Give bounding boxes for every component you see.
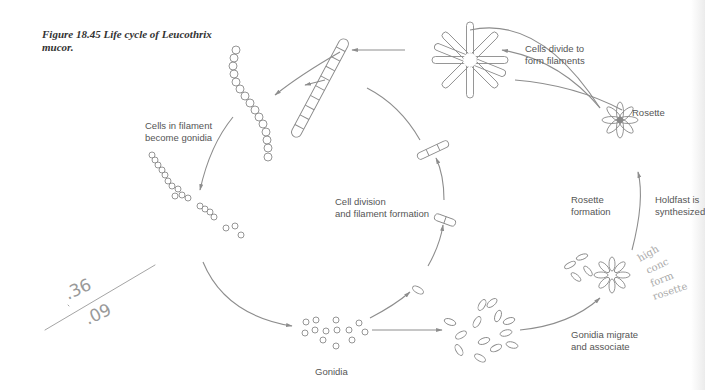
arrow-rosette-curve — [515, 80, 622, 110]
arrow-up-to-filament — [367, 88, 420, 140]
migrating-gonidia — [443, 297, 518, 364]
label-cell-division: Cell division and filament formation — [335, 196, 429, 220]
cycle-arrows — [200, 28, 640, 330]
label-line: become gonidia — [145, 132, 212, 144]
arrow-cell-to-dividing — [428, 225, 443, 266]
forming-rosette — [564, 253, 630, 293]
label-line: formation — [571, 206, 611, 218]
label-rosette-formation: Rosette formation — [571, 194, 611, 218]
label-filament-gonidia: Cells in filament become gonidia — [145, 120, 212, 144]
label-line: Cells in filament — [145, 120, 212, 132]
handwritten-denominator: .09 — [81, 299, 114, 329]
handwritten-margin-note: high conc form rosette — [636, 243, 689, 302]
label-line: synthesized — [655, 206, 705, 218]
label-holdfast: Holdfast is synthesized — [655, 194, 705, 218]
arrow-dividing-to-filament — [436, 158, 444, 200]
fragmenting-chain — [149, 152, 244, 238]
label-rosette: Rosette — [632, 107, 665, 119]
gonidia-cluster — [302, 317, 368, 349]
label-line: form filaments — [525, 55, 585, 67]
label-line: and associate — [571, 341, 638, 353]
arrow-associate-to-rosette — [632, 172, 640, 250]
label-line: Holdfast is — [655, 194, 705, 206]
arrow-rosette-to-star — [470, 28, 600, 108]
arrow-migrate-to-associate — [520, 298, 600, 330]
label-line: Rosette — [571, 194, 611, 206]
star-filaments — [432, 22, 508, 98]
label-line: Rosette — [632, 107, 665, 119]
handwritten-numerator: .36 — [61, 274, 94, 304]
label-gonidia: Gonidia — [315, 366, 348, 378]
label-gonidia-migrate: Gonidia migrate and associate — [571, 329, 638, 353]
label-line: Cell division — [335, 196, 429, 208]
beaded-filament — [229, 46, 272, 161]
arrow-to-gonidia — [203, 262, 292, 326]
segmented-filament — [290, 37, 350, 139]
label-line: Gonidia migrate — [571, 329, 638, 341]
label-line: Gonidia — [315, 366, 348, 378]
label-cells-divide: Cells divide to form filaments — [525, 43, 585, 67]
arrow-filament-left — [305, 80, 325, 85]
label-line: and filament formation — [335, 208, 429, 220]
arrow-gonidia-to-cell — [370, 292, 410, 318]
label-line: Cells divide to — [525, 43, 585, 55]
